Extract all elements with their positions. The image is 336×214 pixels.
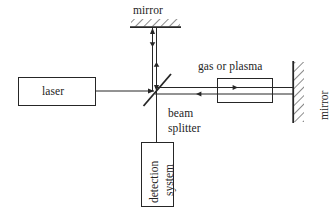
beam-splitter — [144, 74, 172, 106]
laser-label: laser — [42, 85, 64, 97]
optical-diagram-figure: mirror laser gas or plasma beam splitter… — [0, 0, 336, 214]
beam-splitter-to-top-mirror — [150, 28, 160, 91]
detection-system-label-line1: detection — [148, 161, 160, 203]
right-mirror-label: mirror — [318, 91, 330, 120]
gas-cell-label: gas or plasma — [198, 60, 263, 72]
top-mirror-label: mirror — [133, 4, 163, 16]
top-mirror — [130, 19, 181, 27]
right-mirror — [293, 61, 304, 123]
gas-cell-box — [217, 78, 273, 103]
detection-system-label-line2: system — [163, 164, 175, 196]
beam-splitter-label-line1: beam — [168, 107, 193, 119]
beam-splitter-label-line2: splitter — [168, 122, 201, 134]
